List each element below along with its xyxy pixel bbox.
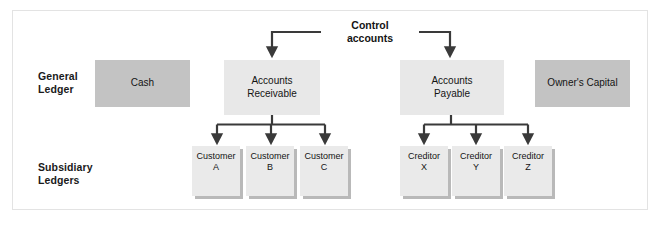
subsidiary-card-customer-c: Customer C bbox=[300, 146, 348, 196]
subsidiary-card-creditor-y: Creditor Y bbox=[452, 146, 500, 196]
control-accounts-label: Control accounts bbox=[321, 19, 419, 44]
gl-account-box-accounts-payable: Accounts Payable bbox=[400, 60, 504, 115]
subsidiary-card-creditor-x: Creditor X bbox=[400, 146, 448, 196]
gl-account-box-accounts-receivable: Accounts Receivable bbox=[224, 60, 320, 115]
row-label-subsidiary-ledgers: Subsidiary Ledgers bbox=[38, 161, 93, 186]
subsidiary-card-customer-b: Customer B bbox=[246, 146, 294, 196]
subsidiary-card-label-creditor-y: Creditor Y bbox=[452, 151, 500, 173]
subsidiary-card-label-customer-b: Customer B bbox=[246, 151, 294, 173]
accounting-ledger-diagram: General Ledger Subsidiary Ledgers Contro… bbox=[0, 0, 660, 228]
gl-account-label-accounts-receivable: Accounts Receivable bbox=[247, 75, 296, 100]
gl-account-label-accounts-payable: Accounts Payable bbox=[431, 75, 472, 100]
gl-account-label-cash: Cash bbox=[131, 77, 154, 90]
subsidiary-card-label-customer-c: Customer C bbox=[300, 151, 348, 173]
subsidiary-card-label-creditor-x: Creditor X bbox=[400, 151, 448, 173]
gl-account-box-owners-capital: Owner's Capital bbox=[535, 60, 630, 107]
gl-account-label-owners-capital: Owner's Capital bbox=[547, 77, 617, 90]
row-label-general-ledger: General Ledger bbox=[38, 70, 78, 95]
subsidiary-card-customer-a: Customer A bbox=[192, 146, 240, 196]
gl-account-box-cash: Cash bbox=[95, 60, 190, 107]
subsidiary-card-label-creditor-z: Creditor Z bbox=[504, 151, 552, 173]
subsidiary-card-label-customer-a: Customer A bbox=[192, 151, 240, 173]
subsidiary-card-creditor-z: Creditor Z bbox=[504, 146, 552, 196]
